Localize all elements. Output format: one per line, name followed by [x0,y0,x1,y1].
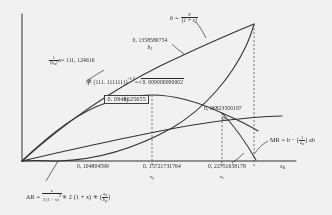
curve-label-by: by [104,97,148,103]
xtick-symbol-xv: xv [208,174,236,180]
curve-label-b2: b2 [222,116,227,122]
value-b1-label: 0, 1358580754 [118,38,182,44]
radical-sign: √0. 009000000002 [138,80,184,86]
mr-formula-label: MR = b − ( 1 ae ) ab [270,136,315,147]
b-formula-fraction: x (1 + x) [181,12,198,23]
xtick-label-xB: xB [280,164,285,170]
ba-equation-label: 1 (ba) x= 111, 124616 [49,56,95,67]
ar-formula-label: AR = x 2 (1 + x)2 ✳ 2 (1 + x) ✳ ( ae bp … [26,189,111,204]
leader-mr [254,141,268,154]
ar-fraction: x 2 (1 + x)2 [42,189,62,203]
figure-canvas: b = x (1 + x) 0, 1358580754 b1 1 (ba) x=… [0,0,332,215]
value-b2-label: 0, 06823500197 [204,106,242,112]
curve-label-b1: b1 [118,45,182,51]
xtick-label-3: 0, 22751658178 [186,164,268,170]
plot-svg [0,0,332,215]
root-equation-label: 学 (111. 1111111)-1/2=√0. 009000000002 [86,77,184,86]
leader-b-formula [196,22,206,38]
b-formula-label: b = x (1 + x) [170,12,198,23]
ba-fraction: 1 (ba) [49,56,59,67]
xtick-symbol-xy: xy [138,174,166,180]
